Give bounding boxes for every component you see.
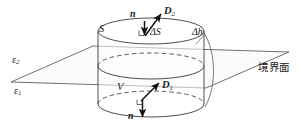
label-volume-V: V: [117, 82, 123, 93]
label-delta-h: Δh: [192, 27, 203, 37]
label-delta-S: ΔS: [150, 27, 161, 37]
label-epsilon-1: ε1: [14, 86, 21, 97]
flux-D1-symbol: D: [162, 79, 170, 90]
label-flux-D2: D2: [164, 6, 175, 18]
label-boundary-surface: 境界面: [258, 62, 290, 73]
epsilon-2-subscript: 2: [16, 58, 19, 65]
diagram-canvas: [0, 0, 301, 126]
flux-D2-symbol: D: [164, 5, 172, 16]
flux-D2-subscript: 2: [172, 10, 176, 18]
label-normal-top: n: [130, 9, 136, 19]
label-surface-S: S: [99, 24, 104, 35]
physics-diagram-figure: ε2 ε1 S V n D2 ΔS Δh D1 n 境界面: [0, 0, 301, 126]
label-epsilon-2: ε2: [12, 55, 19, 66]
epsilon-1-subscript: 1: [18, 89, 21, 96]
label-flux-D1: D1: [162, 80, 173, 92]
flux-D1-subscript: 1: [170, 84, 174, 92]
label-normal-bottom: n: [128, 111, 134, 121]
